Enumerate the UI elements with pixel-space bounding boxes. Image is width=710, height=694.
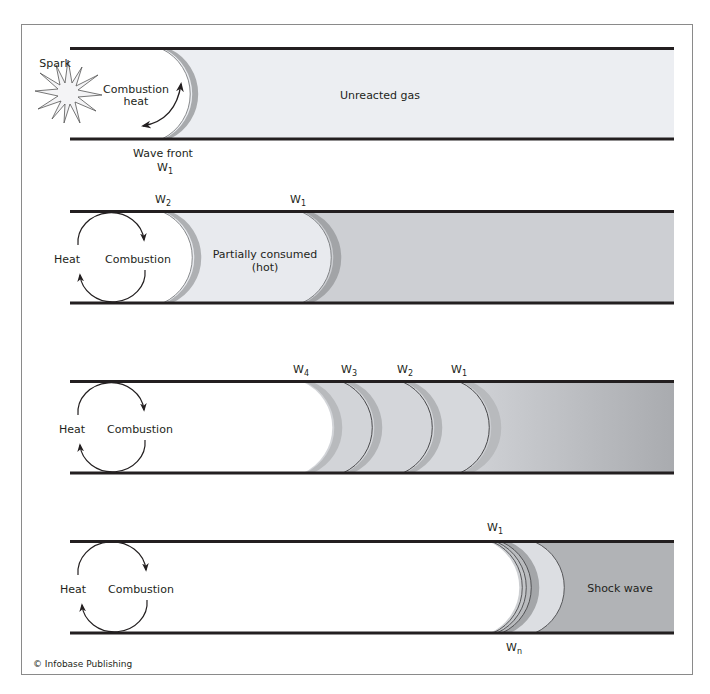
combustion-label: Combustion: [107, 423, 173, 436]
heat-label: Heat: [59, 423, 86, 436]
heat-label: Heat: [60, 583, 87, 596]
heat-label: Heat: [54, 253, 81, 266]
spark-label: Spark: [39, 57, 71, 70]
credit-label: © Infobase Publishing: [33, 659, 132, 669]
combustion-heat-label-2: heat: [124, 95, 149, 108]
combustion-label: Combustion: [108, 583, 174, 596]
detonation-diagram: Spark Combustion heat Unreacted gas Wave…: [0, 0, 710, 694]
partially-consumed-label-2: (hot): [252, 261, 279, 274]
unreacted-gas-label: Unreacted gas: [340, 89, 420, 102]
shock-wave-label: Shock wave: [587, 582, 653, 595]
unreacted-region: [302, 212, 674, 303]
combustion-label: Combustion: [105, 253, 171, 266]
wave-front-label: Wave front: [133, 147, 194, 160]
partially-consumed-label: Partially consumed: [213, 248, 318, 261]
